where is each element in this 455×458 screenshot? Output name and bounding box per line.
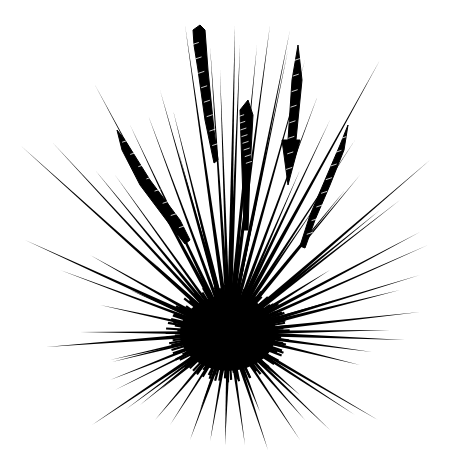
spines-group [20,25,430,450]
pedicellaria-left-feather [117,130,190,244]
sea-urchin-illustration [0,0,455,458]
body-core [180,295,276,371]
pedicellaria-right-feather [300,125,348,248]
pedicellaria-right-arrow [282,45,302,185]
pedicellaria-top-left-club [193,25,218,163]
urchin-svg [0,0,455,458]
